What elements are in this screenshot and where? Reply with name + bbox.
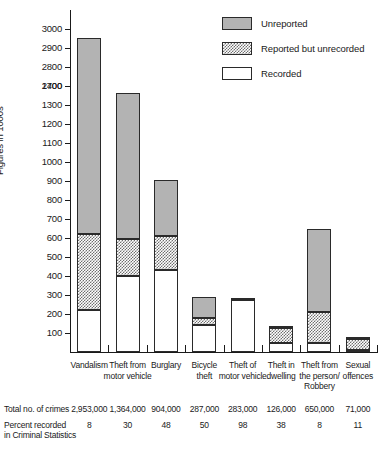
y-axis-tick-label: 800 <box>34 195 62 205</box>
legend-item: Unreported <box>222 16 382 30</box>
y-axis-tick-label: 1100 <box>34 138 62 148</box>
y-axis-tick-label: 2800 <box>34 62 62 72</box>
bar-segment-recorded <box>77 310 101 352</box>
category-label-line: Bicycle <box>192 360 218 370</box>
bar <box>346 339 370 352</box>
category-label-line: motor vehicle <box>104 371 152 381</box>
total-crimes-cell: 71,000 <box>332 404 384 415</box>
bar-segment-unreported <box>116 93 140 239</box>
category-label-line: theft <box>197 371 213 381</box>
y-axis-tick-label: 1200 <box>34 119 62 129</box>
x-axis-tick <box>70 345 71 353</box>
legend-label: Reported but unrecorded <box>261 43 364 54</box>
totals-row-label: Total no. of crimes <box>4 404 69 415</box>
y-axis-tick-label: 1300 <box>34 100 62 110</box>
bar-segment-recorded <box>154 270 178 352</box>
bar <box>269 328 293 352</box>
x-axis-tick <box>339 345 340 353</box>
bar-segment-unreported <box>192 297 216 317</box>
x-axis-tick <box>108 345 109 353</box>
x-axis-tick <box>147 345 148 353</box>
bar-segment-reported-but-unrecorded <box>269 328 293 343</box>
category-label-line: Theft in <box>268 360 295 370</box>
bar-segment-recorded <box>192 325 216 352</box>
bar-segment-unreported <box>154 180 178 236</box>
bar-segment-reported-but-unrecorded <box>77 234 101 310</box>
bar-segment-recorded <box>231 300 255 352</box>
y-axis-tick-label: 500 <box>34 252 62 262</box>
legend-item: Recorded <box>222 66 382 80</box>
category-label-line: Robbery <box>304 381 335 391</box>
bar-segment-reported-but-unrecorded <box>307 312 331 342</box>
bar <box>116 93 140 352</box>
y-axis-tick-label: 3000 <box>34 24 62 34</box>
category-label-line: Burglary <box>151 360 181 370</box>
x-axis-tick <box>300 345 301 353</box>
bar-segment-reported-but-unrecorded <box>116 239 140 276</box>
legend-label: Unreported <box>261 18 308 29</box>
category-label-line: Theft of <box>229 360 256 370</box>
y-axis-tick-label: 1400 <box>34 81 62 91</box>
x-axis-tick <box>224 345 225 353</box>
y-axis-tick-label: 1000 <box>34 157 62 167</box>
y-axis-tick-label: 2900 <box>34 43 62 53</box>
legend-label: Recorded <box>261 68 301 79</box>
bar <box>231 298 255 352</box>
legend-item: Reported but unrecorded <box>222 41 382 55</box>
x-axis-tick <box>185 345 186 353</box>
chart-legend: UnreportedReported but unrecordedRecorde… <box>222 16 382 91</box>
chart-figure: 3000290028002700140013001200110010009008… <box>0 0 388 449</box>
bar-segment-unreported <box>307 229 331 313</box>
y-axis-tick-label: 300 <box>34 290 62 300</box>
bar-segment-unreported <box>269 326 293 328</box>
y-axis-tick-label: 900 <box>34 176 62 186</box>
bar-segment-reported-but-unrecorded <box>154 236 178 270</box>
bar-segment-unreported <box>346 337 370 339</box>
legend-swatch-unrecorded <box>222 42 252 55</box>
bar <box>307 229 331 353</box>
x-axis-tick <box>262 345 263 353</box>
legend-swatch-unreported <box>222 17 252 30</box>
bar <box>192 297 216 352</box>
bar-segment-recorded <box>307 343 331 353</box>
y-axis-title: Figures in 1000s <box>0 106 5 175</box>
percent-row-label-line2: in Criminal Statistics <box>4 430 76 441</box>
percent-recorded-cell: 11 <box>332 420 384 431</box>
bar <box>154 180 178 352</box>
category-label-line: dwelling <box>267 371 296 381</box>
category-label-line: Sexual <box>345 360 370 370</box>
category-label-line: offences <box>343 371 373 381</box>
y-axis-tick-label: 400 <box>34 271 62 281</box>
x-axis-category-label: Sexualoffences <box>332 360 384 381</box>
legend-swatch-recorded <box>222 67 252 80</box>
bar <box>77 38 101 352</box>
bar-segment-reported-but-unrecorded <box>346 339 370 350</box>
bar-segment-reported-but-unrecorded <box>192 318 216 326</box>
bar-segment-recorded <box>269 343 293 352</box>
bar-segment-recorded <box>346 350 370 352</box>
y-axis-tick-label: 100 <box>34 328 62 338</box>
y-axis-tick-label: 700 <box>34 214 62 224</box>
x-axis-tick <box>377 345 378 353</box>
bar-segment-recorded <box>116 276 140 352</box>
bar-segment-unreported <box>77 38 101 234</box>
y-axis-tick-label: 600 <box>34 233 62 243</box>
bar-segment-reported-but-unrecorded <box>231 298 255 300</box>
percent-row-label-line1: Percent recorded <box>4 420 66 431</box>
y-axis-tick-label: 200 <box>34 309 62 319</box>
